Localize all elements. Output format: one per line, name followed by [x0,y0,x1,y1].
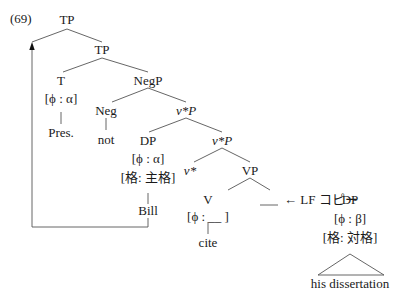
node-dp-object: DP [342,193,359,207]
node-tp-inner: TP [94,43,109,57]
node-negp: NegP [134,74,163,88]
example-number: (69) [10,12,32,26]
node-dp-subject-case: [格: 主格] [121,171,176,185]
node-vp: VP [242,164,259,178]
node-v: V [203,193,212,207]
node-t: T [57,74,65,88]
node-neg-terminal: not [98,133,115,147]
node-vstarp-lower: v*P [212,134,232,148]
node-dp-object-phi: [ϕ : β] [334,212,366,226]
node-dp-subject-phi: [ϕ : α] [132,152,164,166]
node-vstar: v* [184,164,196,178]
node-t-feature: [ϕ : α] [45,92,77,106]
node-v-feature: [ϕ : __ ] [187,210,229,224]
tree-branches [0,0,411,295]
node-dp-subject: DP [140,134,157,148]
node-tp-top: TP [59,13,74,27]
node-dp-object-terminal: his dissertation [311,277,389,291]
node-neg: Neg [95,104,117,118]
node-t-terminal: Pres. [48,126,74,140]
node-v-terminal: cite [199,236,218,250]
node-dp-subject-terminal: Bill [138,204,158,218]
node-dp-object-case: [格: 対格] [323,231,378,245]
node-vstarp-upper: v*P [176,104,196,118]
